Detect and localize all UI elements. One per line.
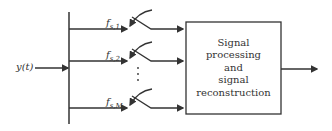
branch-m <box>69 89 183 108</box>
branch-label-1: fs,1 <box>106 17 120 31</box>
branch-label-m: fs,M <box>106 96 123 110</box>
branch-label-2: fs,2 <box>106 49 120 63</box>
branch-1 <box>69 10 183 29</box>
diagram-lines <box>0 0 332 131</box>
input-label: y(t) <box>16 61 33 72</box>
processing-block-label: Signal processing and signal reconstruct… <box>186 22 281 114</box>
branch-2 <box>69 42 183 61</box>
